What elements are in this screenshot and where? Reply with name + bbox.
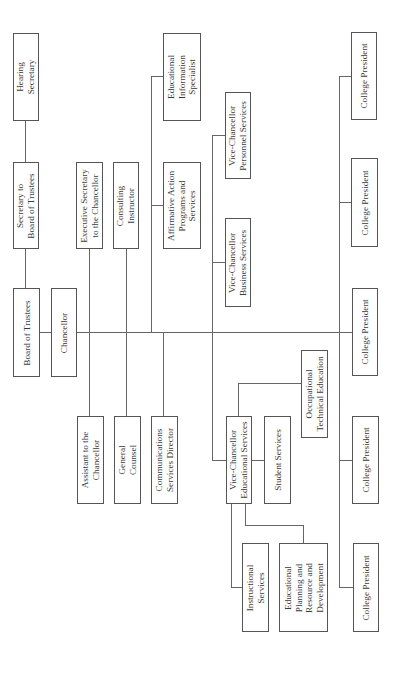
node-college-president-5: College President <box>353 543 379 632</box>
node-label: Student Services <box>272 429 283 491</box>
connector-ote-stem <box>238 383 239 416</box>
connector-board-secretary <box>25 248 26 288</box>
connector-counsel <box>126 332 127 416</box>
node-label: Instructional Services <box>245 564 266 610</box>
connector-consulting <box>126 248 127 332</box>
node-label: Educational Information Specialist <box>166 55 198 99</box>
node-label: Hearing Secretary <box>15 60 36 95</box>
node-college-president-4: College President <box>352 416 379 504</box>
node-assistant-chancellor: Assistant to the Chancellor <box>77 416 104 504</box>
node-label: College President <box>359 170 370 235</box>
connector-president-1 <box>339 76 351 77</box>
node-label: Assistant to the Chancellor <box>80 432 101 489</box>
connector-planning-stem-b <box>303 525 304 543</box>
node-label: Secretary to Board of Trustees <box>15 173 36 238</box>
node-hearing-secretary: Hearing Secretary <box>13 33 39 121</box>
node-affirmative-action: Affirmative Action Programs and Services <box>163 162 201 249</box>
connector-president-2 <box>339 202 351 203</box>
connector-planning-stem-a <box>245 503 246 525</box>
node-vc-educational: Vice-Chancellor Educational Services <box>226 416 252 504</box>
connector-president-5 <box>339 587 353 588</box>
node-label: General Counsel <box>117 445 138 475</box>
connector-vc-trunk <box>212 135 213 460</box>
connector-president-3 <box>339 332 352 333</box>
node-label: Consulting Instructor <box>115 185 136 225</box>
connector-exec-secretary <box>89 248 90 332</box>
node-student-services: Student Services <box>264 416 291 504</box>
connector-vc-business <box>212 262 225 263</box>
node-label: College President <box>360 427 371 492</box>
node-label: Vice-Chancellor Personnel Services <box>227 101 248 171</box>
connector-edu-info <box>151 76 163 77</box>
node-instructional-services: Instructional Services <box>242 543 269 632</box>
connector-instructional <box>231 587 242 588</box>
node-general-counsel: General Counsel <box>114 416 141 504</box>
node-edu-planning: Educational Planning and Resource and De… <box>279 543 328 632</box>
node-label: College President <box>359 43 370 108</box>
connector-vc-personnel <box>212 135 225 136</box>
node-occupational-tech: Occupational Technical Education <box>301 350 328 438</box>
node-label: Vice-Chancellor Business Services <box>227 229 248 295</box>
connector-planning <box>245 525 303 526</box>
node-label: Chancellor <box>59 312 70 352</box>
connector-affirmative <box>151 205 163 206</box>
node-label: College President <box>361 555 372 620</box>
node-edu-info-specialist: Educational Information Specialist <box>163 33 201 121</box>
node-label: College President <box>360 299 371 364</box>
connector-assistant <box>89 332 90 416</box>
node-exec-secretary: Executive Secretary to the Chancellor <box>76 162 103 249</box>
connector-vc-educational <box>212 460 226 461</box>
connector-student-services <box>251 460 264 461</box>
node-vc-personnel: Vice-Chancellor Personnel Services <box>225 92 251 179</box>
connector-communications <box>163 332 164 416</box>
node-consulting-instructor: Consulting Instructor <box>113 162 139 249</box>
node-college-president-2: College President <box>351 158 378 247</box>
node-label: Board of Trustees <box>21 300 32 365</box>
node-label: Educational Planning and Resource and De… <box>282 563 324 613</box>
node-label: Vice-Chancellor Educational Services <box>228 421 249 498</box>
connector-instructional-stem <box>231 503 232 587</box>
node-secretary-board: Secretary to Board of Trustees <box>13 162 39 249</box>
connector-secretary-hearing <box>25 120 26 162</box>
connector-main-spine <box>39 332 339 333</box>
connector-affirmative-stem <box>151 76 152 332</box>
node-communications-director: Communications Services Director <box>151 416 178 504</box>
node-label: Executive Secretary to the Chancellor <box>79 169 100 243</box>
node-college-president-3: College President <box>352 288 378 376</box>
org-chart: Hearing Secretary Secretary to Board of … <box>0 0 401 674</box>
node-board-of-trustees: Board of Trustees <box>13 288 40 377</box>
node-chancellor: Chancellor <box>51 288 77 377</box>
node-label: Affirmative Action Programs and Services <box>166 171 198 241</box>
connector-ote <box>238 383 301 384</box>
node-label: Occupational Technical Education <box>304 356 325 431</box>
node-college-president-1: College President <box>351 32 377 120</box>
node-vc-business: Vice-Chancellor Business Services <box>225 218 251 307</box>
node-label: Communications Services Director <box>154 428 175 492</box>
connector-president-4 <box>339 460 352 461</box>
